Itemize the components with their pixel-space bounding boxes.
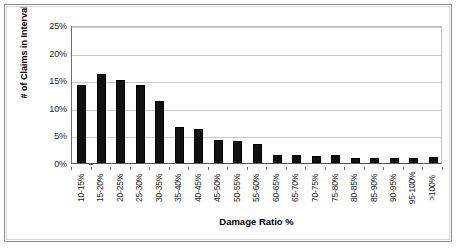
x-tick-label: 15-20% [91,167,111,193]
y-tick-label: 20% [31,49,67,59]
bar-series [72,27,441,163]
y-tick-label: 5% [31,131,67,141]
x-axis-title: Damage Ratio % [71,216,442,227]
x-tick-mark [442,167,443,170]
bar [331,155,340,163]
bar [97,74,106,163]
x-axis-ticks: 10-15%15-20%20-25%25-30%30-35%35-40%40-4… [71,167,442,211]
bar [175,127,184,163]
x-tick-label-text: 60-65% [271,174,281,202]
bar-slot [326,27,346,163]
x-tick-label-text: 50-55% [232,174,242,202]
bar-slot [248,27,268,163]
x-tick-label: 30-35% [149,167,169,193]
bar-slot [306,27,326,163]
bar-slot [189,27,209,163]
bar-slot [209,27,229,163]
bar-slot [131,27,151,163]
x-tick-label: 40-45% [188,167,208,193]
bar-slot [345,27,365,163]
x-tick-label: 55-60% [247,167,267,193]
x-tick-label-text: 80-85% [349,174,359,202]
x-tick-label-text: >100% [427,175,437,201]
bar [233,141,242,163]
bar [155,101,164,163]
x-tick-label: 75-80% [325,167,345,193]
bar-slot [72,27,92,163]
x-tick-label: 65-70% [286,167,306,193]
x-tick-label: 90-95% [383,167,403,193]
bar [370,158,379,163]
bar [253,144,262,163]
bar [194,129,203,163]
page-frame: # of Claims in Interval 0%5%10%15%20%25%… [4,4,452,242]
bar [136,85,145,163]
bar-slot [423,27,443,163]
y-tick-label: 10% [31,104,67,114]
x-tick-label-text: 40-45% [193,174,203,202]
x-tick-label: 45-50% [208,167,228,193]
y-tick-label: 0% [31,159,67,169]
x-tick-label-text: 75-80% [330,174,340,202]
bar-slot [287,27,307,163]
bar-slot [92,27,112,163]
chart-screenshot: # of Claims in Interval 0%5%10%15%20%25%… [0,0,460,250]
bar [409,158,418,163]
x-tick-label-text: 65-70% [291,174,301,202]
x-tick-label: 25-30% [130,167,150,193]
x-tick-label-text: 70-75% [310,174,320,202]
bar [351,158,360,163]
x-tick-label-text: 20-25% [115,174,125,202]
plot-area [71,26,442,164]
x-tick-label-text: 30-35% [154,174,164,202]
x-tick-label: 20-25% [110,167,130,193]
y-tick-mark [89,164,93,165]
y-tick-label: 15% [31,76,67,86]
bar [292,155,301,163]
x-tick-label-text: 15-20% [95,174,105,202]
x-tick-label-text: 35-40% [173,174,183,202]
x-tick-label: 60-65% [266,167,286,193]
x-tick-label: 85-90% [364,167,384,193]
bar [273,155,282,163]
bar [116,80,125,163]
bar-slot [404,27,424,163]
bar-slot [150,27,170,163]
bar [77,85,86,163]
x-tick-label: 80-85% [344,167,364,193]
bar [312,156,321,163]
bar-slot [111,27,131,163]
x-tick-label-text: 95-100% [408,172,418,205]
bar-slot [365,27,385,163]
x-tick-label: 70-75% [305,167,325,193]
x-tick-label: 35-40% [169,167,189,193]
bar [390,158,399,163]
bar-slot [267,27,287,163]
bar [429,157,438,163]
x-tick-label: 95-100% [403,167,423,193]
x-tick-label-text: 55-60% [251,174,261,202]
bar-slot [384,27,404,163]
y-axis-ticks: 0%5%10%15%20%25% [27,26,67,164]
x-tick-label: 10-15% [71,167,91,193]
x-tick-label-text: 25-30% [134,174,144,202]
bar [214,140,223,163]
x-tick-label: 50-55% [227,167,247,193]
bar-slot [228,27,248,163]
x-tick-label-text: 90-95% [388,174,398,202]
y-tick-label: 25% [31,21,67,31]
x-tick-label-text: 10-15% [76,174,86,202]
x-tick-label-text: 85-90% [369,174,379,202]
x-tick-label-text: 45-50% [212,174,222,202]
x-tick-label: >100% [422,167,442,193]
bar-slot [170,27,190,163]
